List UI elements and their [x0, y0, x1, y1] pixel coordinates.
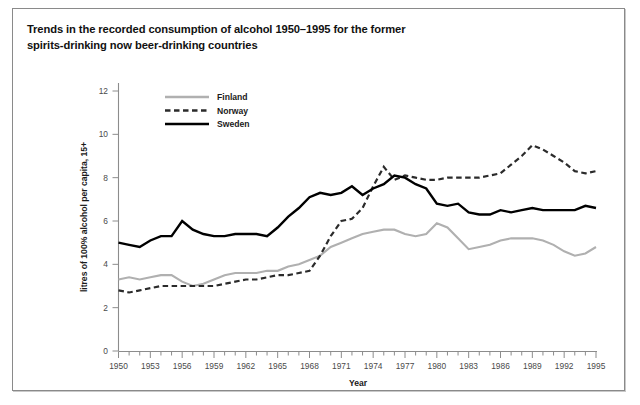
x-tick-label: 1974 [364, 361, 383, 371]
chart-legend: FinlandNorwaySweden [165, 92, 249, 129]
y-tick-label: 2 [103, 303, 108, 313]
x-tick-label: 1995 [587, 361, 606, 371]
legend-label-norway: Norway [217, 106, 248, 116]
y-tick-label: 12 [99, 86, 109, 96]
legend-label-finland: Finland [217, 92, 248, 102]
y-axis-title: litres of 100% alcohol per capita, 15+ [79, 142, 89, 292]
x-tick-label: 1953 [141, 361, 160, 371]
x-tick-label: 1956 [173, 361, 192, 371]
series-group [119, 145, 597, 292]
series-line-norway [119, 145, 597, 292]
x-tick-label: 1971 [332, 361, 351, 371]
series-line-finland [119, 223, 597, 286]
y-axis-ticks: 024681012 [99, 86, 119, 356]
legend-label-sweden: Sweden [217, 119, 249, 129]
line-chart-plot: 024681012 195019531956195919621965196819… [13, 9, 626, 392]
x-axis-title: Year [349, 378, 368, 388]
x-tick-label: 1965 [268, 361, 287, 371]
y-tick-label: 10 [99, 129, 109, 139]
y-tick-label: 0 [103, 346, 108, 356]
x-tick-label: 1977 [396, 361, 415, 371]
y-tick-label: 8 [103, 173, 108, 183]
x-tick-label: 1989 [523, 361, 542, 371]
chart-figure: Trends in the recorded consumption of al… [12, 8, 625, 391]
x-axis-ticks: 1950195319561959196219651968197119741977… [109, 352, 605, 372]
x-tick-label: 1980 [428, 361, 447, 371]
x-tick-label: 1983 [459, 361, 478, 371]
x-tick-label: 1986 [491, 361, 510, 371]
x-tick-label: 1959 [205, 361, 224, 371]
x-tick-label: 1962 [237, 361, 256, 371]
y-tick-label: 4 [103, 259, 108, 269]
x-tick-label: 1968 [300, 361, 319, 371]
x-tick-label: 1992 [555, 361, 574, 371]
x-tick-label: 1950 [109, 361, 128, 371]
y-tick-label: 6 [103, 216, 108, 226]
